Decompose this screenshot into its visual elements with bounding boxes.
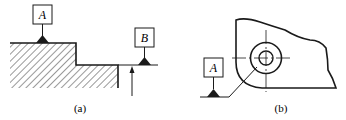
- datum-triangle-a-b: [207, 89, 220, 97]
- arrow-head-icon: [130, 66, 135, 73]
- datum-triangle-b: [138, 57, 151, 65]
- datum-label-a-b: A: [209, 61, 218, 75]
- datum-diagram: A B (a) A (b): [0, 0, 346, 120]
- datum-label-b: B: [141, 31, 149, 45]
- datum-label-a: A: [38, 8, 47, 22]
- figure-b: A (b): [200, 19, 336, 115]
- figure-a: A B (a): [10, 5, 158, 115]
- caption-a: (a): [74, 102, 87, 115]
- datum-triangle-a: [36, 35, 49, 43]
- caption-b: (b): [275, 102, 288, 115]
